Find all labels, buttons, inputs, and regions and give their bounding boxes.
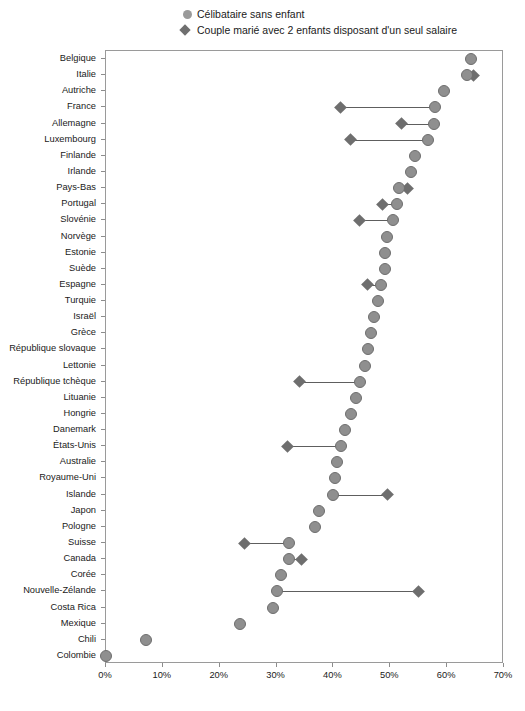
circle-data-point: [387, 214, 399, 226]
x-axis-tick: [162, 663, 163, 667]
circle-data-point: [381, 231, 393, 243]
legend-item-couple: Couple marié avec 2 enfants disposant d'…: [0, 22, 525, 38]
y-axis-labels: BelgiqueItalieAutricheFranceAllemagneLux…: [0, 50, 101, 663]
x-axis-label: 20%: [199, 669, 239, 681]
circle-data-point: [368, 311, 380, 323]
y-axis-label: Chili: [0, 634, 101, 644]
dumbbell-chart-figure: Célibataire sans enfant Couple marié ave…: [0, 0, 525, 711]
y-axis-label: Pologne: [0, 521, 101, 531]
y-axis-label: Nouvelle-Zélande: [0, 585, 101, 595]
y-axis-label: Turquie: [0, 295, 101, 305]
connector-line: [333, 495, 387, 496]
circle-data-point: [429, 101, 441, 113]
y-axis-label: Espagne: [0, 279, 101, 289]
y-axis-label: Portugal: [0, 198, 101, 208]
circle-data-point: [345, 408, 357, 420]
circle-data-point: [313, 505, 325, 517]
x-axis-label: 30%: [256, 669, 296, 681]
circle-data-point: [283, 553, 295, 565]
y-axis-label: Australie: [0, 456, 101, 466]
diamond-data-point: [238, 537, 251, 550]
circle-data-point: [309, 521, 321, 533]
connector-line: [288, 446, 341, 447]
circle-data-point: [327, 489, 339, 501]
y-axis-label: Suisse: [0, 537, 101, 547]
circle-data-point: [354, 376, 366, 388]
legend-label-couple: Couple marié avec 2 enfants disposant d'…: [197, 22, 457, 38]
diamond-data-point: [295, 553, 308, 566]
y-axis-label: Belgique: [0, 53, 101, 63]
legend-item-single: Célibataire sans enfant: [0, 6, 525, 22]
x-axis-tick: [219, 663, 220, 667]
y-axis-label: Allemagne: [0, 118, 101, 128]
y-axis-label: Canada: [0, 553, 101, 563]
y-axis-label: Hongrie: [0, 408, 101, 418]
circle-data-point: [283, 537, 295, 549]
legend-label-single: Célibataire sans enfant: [197, 6, 304, 22]
circle-data-point: [331, 456, 343, 468]
y-axis-label: Pays-Bas: [0, 182, 101, 192]
circle-data-point: [409, 150, 421, 162]
circle-data-point: [379, 247, 391, 259]
x-axis-tick: [276, 663, 277, 667]
circle-data-point: [140, 634, 152, 646]
y-axis-label: Israël: [0, 311, 101, 321]
x-axis-label: 40%: [312, 669, 352, 681]
y-axis-label: Autriche: [0, 85, 101, 95]
diamond-data-point: [412, 585, 425, 598]
circle-data-point: [335, 440, 347, 452]
diamond-data-point: [293, 375, 306, 388]
circle-data-point: [329, 472, 341, 484]
y-axis-label: Luxembourg: [0, 134, 101, 144]
y-axis-label: Costa Rica: [0, 602, 101, 612]
circle-data-point: [271, 585, 283, 597]
y-axis-label: France: [0, 101, 101, 111]
y-axis-label: États-Unis: [0, 440, 101, 450]
circle-data-point: [267, 602, 279, 614]
y-axis-label: Islande: [0, 489, 101, 499]
circle-data-point: [275, 569, 287, 581]
y-axis-label: Lituanie: [0, 392, 101, 402]
diamond-data-point: [361, 279, 374, 292]
circle-data-point: [438, 85, 450, 97]
circle-data-point: [405, 166, 417, 178]
x-axis-tick: [332, 663, 333, 667]
x-axis-label: 70%: [483, 669, 523, 681]
x-axis-label: 50%: [369, 669, 409, 681]
circle-data-point: [465, 53, 477, 65]
y-axis-label: Finlande: [0, 150, 101, 160]
y-axis-label: Japon: [0, 505, 101, 515]
circle-data-point: [234, 618, 246, 630]
x-axis-label: 10%: [142, 669, 182, 681]
x-axis-label: 0%: [85, 669, 125, 681]
diamond-marker-icon: [183, 26, 192, 35]
circle-data-point: [362, 343, 374, 355]
y-axis-label: Irlande: [0, 166, 101, 176]
connector-line: [350, 140, 428, 141]
x-axis-tick: [105, 663, 106, 667]
connector-line: [277, 591, 419, 592]
circle-marker-icon: [183, 10, 192, 19]
circle-data-point: [375, 279, 387, 291]
y-axis-label: Slovénie: [0, 214, 101, 224]
connector-line: [341, 107, 435, 108]
plot-marks-layer: [106, 51, 504, 664]
diamond-data-point: [395, 117, 408, 130]
circle-data-point: [350, 392, 362, 404]
y-axis-label: Danemark: [0, 424, 101, 434]
circle-data-point: [372, 295, 384, 307]
diamond-data-point: [377, 198, 390, 211]
x-axis-labels: 0%10%20%30%40%50%60%70%: [0, 669, 525, 685]
diamond-data-point: [353, 214, 366, 227]
x-axis-label: 60%: [426, 669, 466, 681]
y-axis-label: Royaume-Uni: [0, 472, 101, 482]
y-axis-label: Grèce: [0, 327, 101, 337]
y-axis-label: Suède: [0, 263, 101, 273]
circle-data-point: [339, 424, 351, 436]
circle-data-point: [100, 650, 112, 662]
y-axis-label: Estonie: [0, 247, 101, 257]
y-axis-label: Lettonie: [0, 360, 101, 370]
y-axis-label: République tchèque: [0, 376, 101, 386]
x-axis-tick: [503, 663, 504, 667]
diamond-data-point: [381, 488, 394, 501]
